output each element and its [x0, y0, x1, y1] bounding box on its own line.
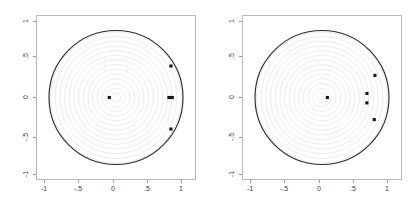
y-tick-mark	[239, 137, 242, 138]
x-tick-label: -1	[41, 185, 47, 192]
grid-circle	[308, 83, 336, 111]
y-tick-mark	[33, 21, 36, 22]
scatter-canvas-right	[243, 16, 401, 179]
scatter-canvas-left	[37, 16, 195, 179]
grid-circle	[303, 79, 341, 117]
x-tick-mark	[181, 180, 182, 183]
grid-circle	[256, 32, 387, 163]
grid-circle	[97, 79, 135, 117]
grid-circle	[60, 41, 173, 154]
grid-circle	[280, 55, 364, 139]
x-tick-mark	[113, 180, 114, 183]
grid-circle	[55, 37, 177, 159]
x-tick-mark	[284, 180, 285, 183]
grid-circle	[83, 65, 149, 131]
x-tick-mark	[250, 180, 251, 183]
plot-frame-right	[242, 15, 402, 180]
grid-circles-left	[50, 32, 181, 163]
data-point	[365, 92, 368, 95]
grid-circle	[317, 93, 326, 102]
data-point	[169, 127, 172, 130]
y-tick-label: 1	[228, 15, 235, 27]
x-tick-label: -1	[247, 185, 253, 192]
grid-circle	[74, 55, 158, 139]
x-tick-label: 0	[317, 185, 321, 192]
grid-circle	[64, 46, 167, 149]
x-tick-mark	[353, 180, 354, 183]
x-tick-mark	[147, 180, 148, 183]
data-point	[169, 96, 172, 99]
grid-circle	[78, 60, 153, 135]
y-tick-label: .5	[228, 50, 235, 62]
y-tick-mark	[239, 56, 242, 57]
x-tick-label: 1	[385, 185, 389, 192]
y-tick-label: -1	[228, 168, 235, 180]
y-tick-mark	[33, 137, 36, 138]
y-tick-mark	[33, 174, 36, 175]
grid-circle	[88, 69, 144, 125]
x-tick-label: .5	[350, 185, 356, 192]
x-tick-label: -.5	[280, 185, 288, 192]
y-tick-label: -1	[22, 168, 29, 180]
y-tick-label: -.5	[228, 131, 235, 143]
y-tick-label: .5	[22, 50, 29, 62]
data-point	[169, 64, 172, 67]
y-tick-mark	[33, 56, 36, 57]
y-tick-mark	[239, 21, 242, 22]
x-tick-label: .5	[144, 185, 150, 192]
eigenvalue-unit-circle-figure: -1 -.5 0 .5 1 1 .5 0 -.5 -1	[0, 0, 411, 207]
grid-circle	[294, 69, 350, 125]
data-point	[108, 96, 111, 99]
x-tick-label: 0	[111, 185, 115, 192]
x-tick-mark	[78, 180, 79, 183]
grid-circles-right	[256, 32, 387, 163]
data-point	[326, 96, 329, 99]
chart-panel-right: -1 -.5 0 .5 1 1 .5 0 -.5 -1	[206, 0, 411, 207]
plot-area-left	[37, 16, 195, 179]
grid-circle	[93, 74, 140, 121]
grid-circle	[299, 74, 346, 121]
grid-circle	[111, 93, 120, 102]
grid-circle	[261, 37, 383, 159]
plot-area-right	[243, 16, 401, 179]
grid-circle	[270, 46, 373, 149]
grid-circle	[50, 32, 181, 163]
y-tick-label: -.5	[22, 131, 29, 143]
x-tick-label: 1	[179, 185, 183, 192]
y-tick-mark	[239, 97, 242, 98]
data-point	[373, 74, 376, 77]
y-tick-label: 1	[22, 15, 29, 27]
y-tick-mark	[33, 97, 36, 98]
grid-circle	[266, 41, 379, 154]
y-tick-label: 0	[228, 91, 235, 103]
grid-circle	[102, 83, 130, 111]
grid-circle	[289, 65, 355, 131]
data-point	[365, 101, 368, 104]
plot-frame-left	[36, 15, 196, 180]
data-point	[373, 118, 376, 121]
x-tick-label: -.5	[74, 185, 82, 192]
y-tick-mark	[239, 174, 242, 175]
y-tick-label: 0	[22, 91, 29, 103]
grid-circle	[284, 60, 359, 135]
x-tick-mark	[319, 180, 320, 183]
x-tick-mark	[44, 180, 45, 183]
x-tick-mark	[387, 180, 388, 183]
chart-panel-left: -1 -.5 0 .5 1 1 .5 0 -.5 -1	[0, 0, 205, 207]
